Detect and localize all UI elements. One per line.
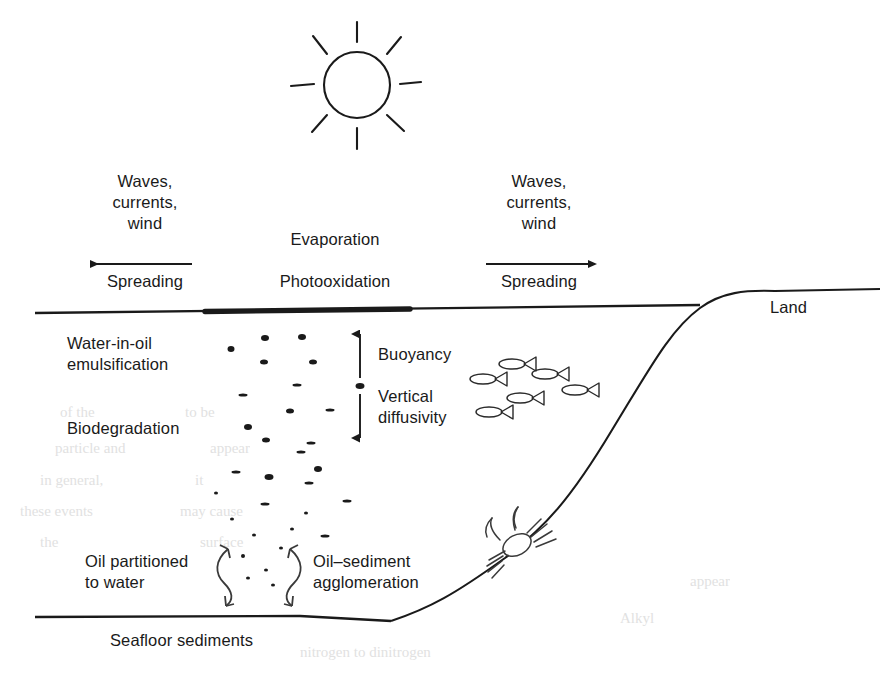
oil-droplet-icon	[304, 512, 308, 515]
oil-droplet-icon	[241, 554, 245, 558]
oil-droplet-icon	[228, 346, 235, 352]
oil-slick-icon	[205, 309, 410, 312]
oil-droplet-icon	[264, 569, 268, 572]
fish-icon	[499, 357, 536, 371]
oil-droplet-icon	[262, 438, 270, 443]
oil-droplet-icon	[261, 335, 269, 341]
oil-droplet-icon	[252, 534, 256, 537]
oil-droplet-icon	[314, 466, 322, 472]
seafloor-label: Seafloor sediments	[110, 630, 253, 651]
oil-droplet-icon	[343, 500, 352, 503]
evaporation-label: Evaporation	[250, 229, 420, 250]
oil-droplet-icon	[261, 503, 270, 506]
land-label: Land	[770, 297, 807, 318]
seafloor-line	[35, 616, 391, 621]
oil-droplet-icon	[244, 424, 252, 430]
oil-droplet-icon	[293, 384, 302, 387]
oil-droplet-icon	[309, 360, 317, 365]
oil-spill-diagram: of theto beparticle andappearin general,…	[0, 0, 894, 673]
oil-sediment-label: Oil–sediment agglomeration	[313, 551, 419, 593]
photooxidation-label: Photooxidation	[250, 271, 420, 292]
crab-icon	[486, 507, 556, 578]
left-forcing-label: Waves, currents, wind	[90, 171, 200, 234]
fish-icon	[507, 391, 544, 405]
left-spreading-label: Spreading	[90, 271, 200, 292]
oil-droplet-icon	[279, 547, 283, 550]
oil-droplet-field	[214, 334, 352, 587]
shoreline-curve	[391, 289, 880, 621]
oil-droplet-icon	[265, 474, 274, 480]
oil-droplet-icon	[286, 409, 294, 414]
buoyancy-label: Buoyancy	[378, 344, 451, 365]
sun-icon	[291, 22, 421, 149]
oil-droplet-icon	[297, 451, 306, 454]
oil-droplet-icon	[321, 535, 330, 538]
curved-double-arrow-left-icon	[217, 545, 234, 606]
oil-droplet-icon	[290, 528, 294, 531]
oil-droplet-icon	[239, 394, 248, 397]
oil-droplet-icon	[230, 518, 234, 521]
oil-droplet-icon	[298, 334, 306, 340]
fish-icon	[532, 367, 569, 381]
oil-droplet-icon	[305, 482, 314, 485]
fish-icon	[476, 405, 513, 419]
fish-icon	[562, 383, 599, 397]
oil-droplet-icon	[326, 409, 335, 412]
curved-double-arrow-right-icon	[284, 545, 301, 606]
fish-icon	[470, 372, 507, 386]
oil-droplet-icon	[214, 492, 218, 495]
right-forcing-label: Waves, currents, wind	[484, 171, 594, 234]
oil-droplet-icon	[232, 471, 241, 474]
fish-school	[470, 357, 599, 419]
oil-droplet-icon	[356, 383, 365, 389]
right-spreading-label: Spreading	[484, 271, 594, 292]
oil-droplet-icon	[307, 442, 316, 445]
vertical-diffusivity-label: Vertical diffusivity	[378, 386, 447, 428]
oil-droplet-icon	[260, 360, 268, 365]
biodegradation-label: Biodegradation	[67, 418, 179, 439]
water-in-oil-label: Water-in-oil emulsification	[67, 333, 168, 375]
oil-droplet-icon	[246, 577, 250, 580]
oil-droplet-icon	[271, 584, 275, 587]
oil-partitioned-label: Oil partitioned to water	[85, 551, 188, 593]
